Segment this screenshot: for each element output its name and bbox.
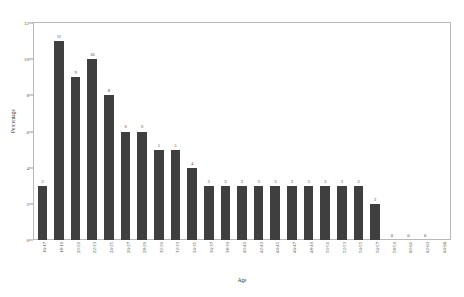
- x-label-slot: 36-37: [200, 241, 217, 275]
- bar-value-label: 10: [84, 53, 101, 58]
- bar: [287, 186, 297, 240]
- bar: [304, 186, 314, 240]
- x-label-slot: 56-57: [367, 241, 384, 275]
- bar: [121, 132, 131, 241]
- bar-slot: 3: [284, 23, 301, 240]
- bar: [154, 150, 164, 240]
- bar: [370, 204, 380, 240]
- x-label-slot: 40-41: [234, 241, 251, 275]
- x-tick-label: 50-51: [325, 242, 330, 253]
- bar-value-label: 3: [250, 180, 267, 185]
- bar-value-label: 3: [234, 180, 251, 185]
- bar-value-label: 0: [417, 234, 434, 239]
- x-label-slot: 58-59: [383, 241, 400, 275]
- bar-slot: 3: [217, 23, 234, 240]
- bar-value-label: 3: [34, 180, 51, 185]
- bar: [204, 186, 214, 240]
- bars-container: 31191086655433333333332000: [34, 23, 450, 240]
- x-label-slot: 22-23: [84, 241, 101, 275]
- x-label-slot: 34-35: [184, 241, 201, 275]
- bar-value-label: 5: [167, 144, 184, 149]
- bar-slot: 0: [417, 23, 434, 240]
- bar-slot: 11: [51, 23, 68, 240]
- bar: [270, 186, 280, 240]
- bar-value-label: 2: [367, 198, 384, 203]
- bar: [87, 59, 97, 240]
- bar-slot: 8: [101, 23, 118, 240]
- bar-value-label: 3: [217, 180, 234, 185]
- x-tick-label: 46-47: [292, 242, 297, 253]
- bar-slot: 9: [67, 23, 84, 240]
- x-label-slot: 16-17: [34, 241, 51, 275]
- bar: [137, 132, 147, 241]
- bar-value-label: 3: [200, 180, 217, 185]
- bar: [320, 186, 330, 240]
- x-label-slot: 60-61: [400, 241, 417, 275]
- x-tick-label: 48-49: [309, 242, 314, 253]
- bar-slot: [433, 23, 450, 240]
- bar-slot: 0: [400, 23, 417, 240]
- x-tick-label: 30-31: [159, 242, 164, 253]
- bar: [171, 150, 181, 240]
- bar: [237, 186, 247, 240]
- x-tick-label: 16-17: [42, 242, 47, 253]
- bar-slot: 5: [150, 23, 167, 240]
- bar-slot: 2: [367, 23, 384, 240]
- x-tick-label: 62-63: [425, 242, 430, 253]
- bar-value-label: 6: [134, 125, 151, 130]
- x-label-slot: 62-63: [417, 241, 434, 275]
- bar-slot: 3: [334, 23, 351, 240]
- x-tick-label: 18-19: [59, 242, 64, 253]
- bar-value-label: 9: [67, 71, 84, 76]
- x-tick-label: 28-29: [142, 242, 147, 253]
- bar-slot: 0: [383, 23, 400, 240]
- bar-slot: 6: [134, 23, 151, 240]
- x-tick-label: 20-21: [76, 242, 81, 253]
- x-tick-label: 32-33: [175, 242, 180, 253]
- bar-value-label: 3: [334, 180, 351, 185]
- x-label-slot: 30-31: [150, 241, 167, 275]
- x-label-slot: 28-29: [134, 241, 151, 275]
- bar-slot: 3: [34, 23, 51, 240]
- x-tick-label: 58-59: [392, 242, 397, 253]
- bar-value-label: 3: [284, 180, 301, 185]
- bar: [337, 186, 347, 240]
- bar-slot: 10: [84, 23, 101, 240]
- x-tick-label: 56-57: [375, 242, 380, 253]
- x-tick-label: 64-66: [442, 242, 447, 253]
- bar-value-label: 11: [51, 35, 68, 40]
- bar: [187, 168, 197, 240]
- x-axis-ticks: 16-1718-1920-2122-2324-2526-2728-2930-31…: [34, 241, 450, 275]
- bar-slot: 6: [117, 23, 134, 240]
- bar-slot: 3: [250, 23, 267, 240]
- x-label-slot: 50-51: [317, 241, 334, 275]
- x-label-slot: 38-39: [217, 241, 234, 275]
- x-tick-label: 54-55: [358, 242, 363, 253]
- x-axis-title: Age: [33, 277, 451, 283]
- x-label-slot: 54-55: [350, 241, 367, 275]
- bar-value-label: 8: [101, 89, 118, 94]
- x-label-slot: 24-25: [101, 241, 118, 275]
- bar: [104, 95, 114, 240]
- bar-slot: 5: [167, 23, 184, 240]
- x-label-slot: 64-66: [433, 241, 450, 275]
- bar-value-label: 3: [267, 180, 284, 185]
- bar-slot: 4: [184, 23, 201, 240]
- x-tick-label: 26-27: [126, 242, 131, 253]
- x-label-slot: 18-19: [51, 241, 68, 275]
- x-tick-label: 34-35: [192, 242, 197, 253]
- x-label-slot: 20-21: [67, 241, 84, 275]
- y-axis-ticks: 024681012: [0, 0, 33, 297]
- bar: [221, 186, 231, 240]
- x-label-slot: 52-53: [334, 241, 351, 275]
- bar: [38, 186, 48, 240]
- bar: [254, 186, 264, 240]
- bar-value-label: 4: [184, 162, 201, 167]
- bar-value-label: 3: [317, 180, 334, 185]
- x-tick-label: 40-41: [242, 242, 247, 253]
- bar-slot: 3: [267, 23, 284, 240]
- bar-value-label: 0: [400, 234, 417, 239]
- x-label-slot: 46-47: [284, 241, 301, 275]
- x-tick-label: 52-53: [342, 242, 347, 253]
- x-label-slot: 32-33: [167, 241, 184, 275]
